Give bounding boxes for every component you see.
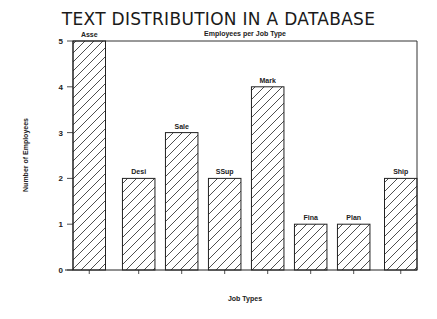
y-tick-label: 2 — [59, 174, 64, 183]
bars: AsseDesiSaleSSupMarkFinaPlanShip — [73, 31, 417, 270]
bar-label: Fina — [304, 214, 318, 221]
bar-label: Ship — [393, 168, 408, 176]
bar-label: Mark — [260, 77, 276, 84]
bar-desi: Desi — [122, 168, 155, 270]
y-tick-label: 5 — [59, 37, 64, 46]
y-tick-label: 4 — [59, 83, 64, 92]
chart-subtitle: Employees per Job Type — [204, 30, 286, 38]
x-axis-label: Job Types — [228, 295, 262, 303]
y-tick-label: 1 — [59, 220, 64, 229]
bar-asse: Asse — [73, 31, 106, 270]
bar-fina: Fina — [294, 214, 327, 270]
y-tick-label: 0 — [59, 266, 64, 275]
bar-chart: Employees per Job Type AsseDesiSaleSSupM… — [0, 0, 437, 319]
bar-label: Desi — [131, 168, 146, 175]
bar-plan: Plan — [337, 214, 370, 270]
bar-label: Sale — [174, 123, 189, 130]
bar-label: SSup — [216, 168, 234, 176]
y-tick-label: 3 — [59, 129, 64, 138]
bar-ssup: SSup — [208, 168, 241, 270]
bar-sale: Sale — [165, 123, 198, 270]
bar-ship: Ship — [385, 168, 418, 270]
bar-label: Asse — [81, 31, 98, 38]
bar-label: Plan — [346, 214, 361, 221]
bar-mark: Mark — [251, 77, 284, 270]
y-axis-label: Number of Employees — [22, 118, 30, 192]
x-axis — [89, 270, 401, 274]
